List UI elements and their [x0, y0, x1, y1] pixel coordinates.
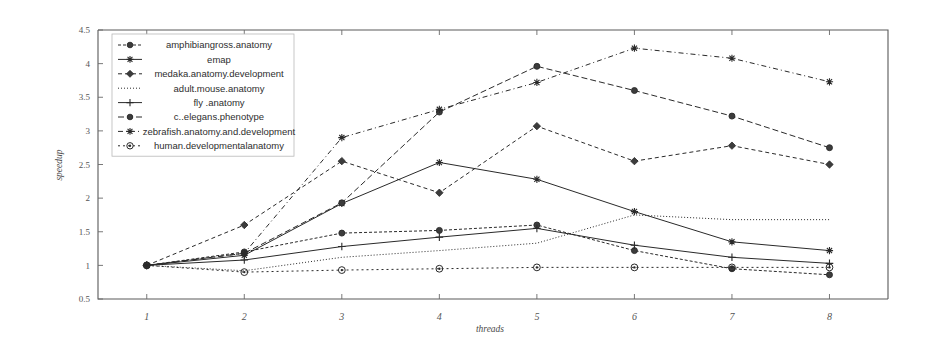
y-tick-label: 2.5: [79, 160, 91, 170]
legend-item-label: human.developmentalanatomy: [154, 140, 284, 151]
legend-item-label: adult.mouse.anatomy: [174, 83, 265, 94]
data-point-marker: [338, 243, 346, 251]
data-point-marker: [436, 227, 442, 233]
x-tick-label: 1: [144, 311, 149, 322]
chart-figure: 0.511.522.533.544.5 12345678 amphibiangr…: [0, 0, 928, 350]
data-point-marker: [436, 159, 443, 166]
data-point-marker: [339, 200, 345, 206]
data-point-marker: [241, 250, 248, 257]
y-tick-label: 4: [86, 59, 91, 69]
y-tick-label: 3: [86, 126, 91, 136]
data-point-marker: [127, 114, 133, 120]
series-polyline: [147, 265, 830, 272]
series-polyline: [147, 215, 830, 271]
data-series: [147, 215, 830, 271]
data-point-marker: [534, 63, 540, 69]
data-point-marker: [631, 157, 638, 164]
y-tick-label: 1: [86, 261, 91, 271]
series-polyline: [147, 162, 830, 265]
legend-item-label: medaka.anatomy.development: [154, 68, 284, 79]
data-point-marker: [127, 128, 134, 135]
data-point-marker: [728, 254, 736, 262]
x-axis-tick-labels: 12345678: [144, 311, 832, 322]
data-point-marker-core: [633, 266, 635, 268]
legend-item-label: c..elegans.phenotype: [174, 111, 264, 122]
data-point-marker-core: [129, 145, 131, 147]
data-point-marker-core: [243, 271, 245, 273]
y-axis-tick-labels: 0.511.522.533.544.5: [79, 25, 91, 304]
data-point-marker: [436, 106, 443, 113]
data-point-marker-core: [731, 266, 733, 268]
data-point-marker: [127, 42, 133, 48]
chart-legend: amphibiangross.anatomyemapmedaka.anatomy…: [112, 34, 296, 156]
x-tick-label: 2: [242, 311, 247, 322]
x-tick-label: 3: [338, 311, 344, 322]
data-point-marker: [533, 122, 540, 129]
legend-box: [112, 34, 294, 156]
data-point-marker: [728, 238, 735, 245]
data-point-marker: [631, 88, 637, 94]
speedup-line-chart: 0.511.522.533.544.5 12345678 amphibiangr…: [0, 0, 928, 350]
data-point-marker: [533, 176, 540, 183]
data-point-marker: [339, 230, 345, 236]
data-point-marker-core: [536, 266, 538, 268]
y-tick-label: 1.5: [79, 227, 91, 237]
x-tick-label: 8: [827, 311, 832, 322]
y-tick-label: 3.5: [79, 92, 91, 102]
data-point-marker: [631, 45, 638, 52]
y-axis-title: speedup: [54, 149, 64, 180]
legend-item[interactable]: zebrafish.anatomy.and.development: [118, 126, 296, 137]
x-tick-label: 5: [534, 311, 539, 322]
legend-item-label: zebrafish.anatomy.and.development: [143, 126, 296, 137]
data-point-marker: [826, 161, 833, 168]
data-point-marker: [728, 55, 735, 62]
data-point-marker: [631, 241, 639, 249]
data-point-marker: [436, 233, 444, 241]
x-tick-label: 7: [729, 311, 735, 322]
data-point-marker: [533, 79, 540, 86]
data-point-marker: [127, 56, 134, 63]
data-point-marker: [728, 142, 735, 149]
data-point-marker-core: [438, 268, 440, 270]
legend-item-label: emap: [207, 54, 231, 65]
data-point-marker: [826, 145, 832, 151]
data-point-marker-core: [828, 266, 830, 268]
data-point-marker: [241, 221, 248, 228]
data-point-marker: [729, 113, 735, 119]
data-point-marker-core: [341, 269, 343, 271]
y-tick-label: 2: [86, 193, 91, 203]
x-tick-label: 6: [632, 311, 637, 322]
data-point-marker: [826, 272, 832, 278]
legend-item-label: amphibiangross.anatomy: [166, 39, 272, 50]
x-axis-title: threads: [476, 324, 504, 334]
data-point-marker: [631, 208, 638, 215]
data-point-marker: [338, 157, 345, 164]
data-point-marker: [826, 247, 833, 254]
data-point-marker: [826, 78, 833, 85]
x-tick-label: 4: [437, 311, 442, 322]
data-point-marker-core: [146, 264, 148, 266]
data-point-marker: [338, 134, 345, 141]
legend-item-label: fly .anatomy: [193, 97, 244, 108]
y-tick-label: 0.5: [79, 294, 91, 304]
data-point-marker: [436, 189, 443, 196]
y-tick-label: 4.5: [79, 25, 91, 35]
